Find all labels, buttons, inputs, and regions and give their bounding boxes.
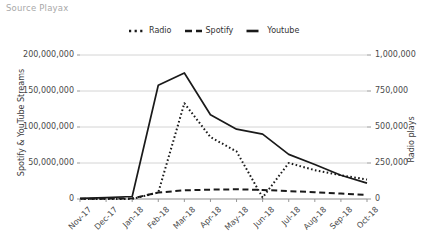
y-right-tick-label: 500,000 xyxy=(375,122,408,131)
series-line-radio xyxy=(80,103,367,199)
y-left-tick-label: 100,000,000 xyxy=(0,122,74,131)
series-lines xyxy=(80,73,367,199)
y-right-tick-label: 1,000,000 xyxy=(375,50,416,59)
y-right-tick-label: 250,000 xyxy=(375,158,408,167)
gridlines xyxy=(80,55,367,199)
y-right-tick-label: 0 xyxy=(375,194,380,203)
y-left-tick-label: 200,000,000 xyxy=(0,50,74,59)
chart-container: Source Playax Radio Spotify xyxy=(0,0,435,250)
y-left-tick-label: 0 xyxy=(0,194,74,203)
y-right-tick-label: 750,000 xyxy=(375,86,408,95)
y-left-tick-label: 150,000,000 xyxy=(0,86,74,95)
y-left-tick-label: 50,000,000 xyxy=(0,158,74,167)
axis-tick-marks xyxy=(77,55,371,202)
series-line-youtube xyxy=(80,73,367,198)
